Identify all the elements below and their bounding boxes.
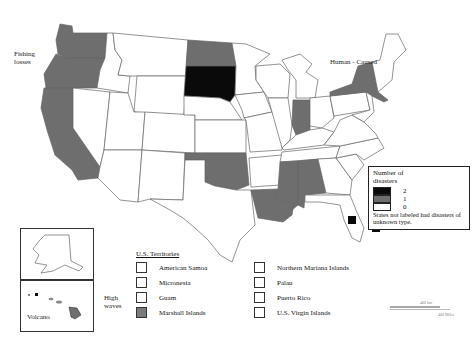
- hawaii-shape: [21, 281, 93, 331]
- territory-label: Northern Mariana Islands: [277, 264, 349, 272]
- territory-swatch: [136, 277, 147, 288]
- hawaii-inset: Volcano: [20, 280, 94, 332]
- legend-item-0: 0: [373, 203, 407, 210]
- legend-value: 0: [403, 203, 407, 211]
- territory-label: Marshall Islands: [159, 309, 205, 317]
- legend-swatch-black: [373, 187, 391, 195]
- territory-swatch: [136, 307, 147, 318]
- annotation-fishing-losses: Fishing losses: [14, 50, 35, 66]
- territory-swatch: [136, 292, 147, 303]
- territory-label: Guam: [159, 294, 176, 302]
- state-washington: [56, 24, 107, 58]
- territory-micronesia: Micronesia: [136, 277, 191, 288]
- annotation-human-caused: Human - Caused: [330, 58, 377, 66]
- territory-label: American Samoa: [159, 264, 207, 272]
- territory-northern-mariana-islands: Northern Mariana Islands: [254, 262, 349, 273]
- annotation-high-waves: High waves: [104, 294, 122, 310]
- state-indiana: [292, 100, 310, 135]
- territory-swatch: [254, 307, 265, 318]
- annotation-line-2: losses: [14, 58, 35, 66]
- annotation-line-1: Fishing: [14, 50, 35, 58]
- legend-value: 1: [403, 195, 407, 203]
- alaska-inset: [20, 228, 94, 280]
- territory-label: Micronesia: [159, 279, 191, 287]
- scale-miles-bar: [390, 309, 450, 310]
- state-oregon: [44, 54, 105, 88]
- territory-american-samoa: American Samoa: [136, 262, 207, 273]
- legend-note: States not labeled had disasters of unkn…: [373, 211, 467, 225]
- legend-title-line-1: Number of: [373, 169, 404, 177]
- legend-item-2: 2: [373, 187, 407, 194]
- legend-title-line-2: disasters: [373, 177, 404, 185]
- legend-swatch-white: [373, 203, 391, 211]
- scale-bar: 400 km 400 Miles: [388, 300, 458, 320]
- legend-item-1: 1: [373, 195, 407, 202]
- territory-us-virgin-islands: U.S. Virgin Islands: [254, 307, 330, 318]
- legend-swatch-gray: [373, 195, 391, 203]
- legend-value: 2: [403, 187, 407, 195]
- territories-title: U.S. Territories: [136, 250, 179, 258]
- scale-km-bar: [390, 306, 440, 308]
- territory-guam: Guam: [136, 292, 176, 303]
- territory-label: U.S. Virgin Islands: [277, 309, 330, 317]
- florida-marker-1: [348, 216, 356, 224]
- legend-title: Number of disasters: [373, 169, 404, 185]
- alaska-shape: [21, 229, 93, 279]
- annotation-volcano: Volcano: [27, 313, 50, 321]
- state-north-dakota: [186, 40, 236, 66]
- territory-swatch: [254, 277, 265, 288]
- annotation-line-2: waves: [104, 302, 122, 310]
- annotation-line-1: High: [104, 294, 122, 302]
- scale-miles-label: 400 Miles: [438, 312, 454, 317]
- territory-marshall-islands: Marshall Islands: [136, 307, 205, 318]
- scale-km-label: 400 km: [420, 300, 432, 305]
- territory-label: Palau: [277, 279, 293, 287]
- territory-label: Puerto Rico: [277, 294, 310, 302]
- territory-swatch: [254, 292, 265, 303]
- legend: Number of disasters 2 1 0 States not lab…: [368, 166, 470, 230]
- territory-swatch: [254, 262, 265, 273]
- territory-palau: Palau: [254, 277, 293, 288]
- territory-swatch: [136, 262, 147, 273]
- territory-puerto-rico: Puerto Rico: [254, 292, 310, 303]
